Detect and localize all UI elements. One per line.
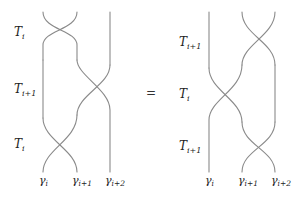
left-braid xyxy=(43,12,110,172)
right-generator-label-3: Ti+1 xyxy=(179,139,201,155)
right-strand-segment xyxy=(242,12,275,65)
left-generator-label-3: Ti xyxy=(14,137,25,153)
left-strand-segment xyxy=(77,65,110,115)
equals-sign: = xyxy=(146,86,156,100)
right-strand-segment xyxy=(209,65,242,172)
right-strand-label-3: γi+2 xyxy=(271,174,291,188)
right-strand-label-1: γi xyxy=(205,174,215,188)
left-strand-label-1: γi xyxy=(39,174,49,188)
right-strand-segment xyxy=(242,122,275,172)
right-generator-label-2: Ti xyxy=(179,87,190,103)
right-strand-label-2: γi+1 xyxy=(238,174,258,188)
left-strand-segment xyxy=(43,115,77,172)
left-strand-label-2: γi+1 xyxy=(72,174,92,188)
right-generator-label-1: Ti+1 xyxy=(179,35,201,51)
braid-relation-diagram: Ti Ti+1 Ti γi γi+1 γi+2 = Ti+1 Ti Ti+1 γ… xyxy=(0,0,300,199)
left-strand-label-3: γi+2 xyxy=(105,174,125,188)
left-strand-segment xyxy=(77,60,110,172)
left-generator-label-2: Ti+1 xyxy=(14,82,36,98)
right-braid xyxy=(209,12,275,172)
left-generator-label-1: Ti xyxy=(14,25,25,41)
